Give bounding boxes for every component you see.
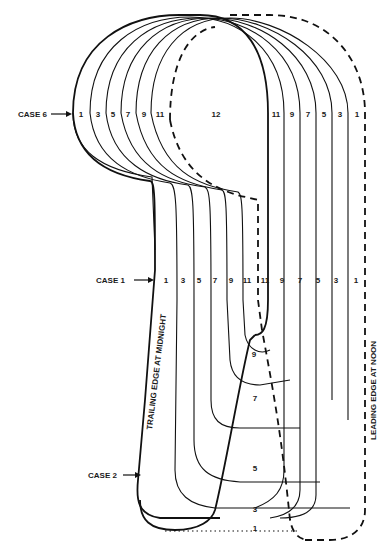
case6-label: CASE 6 bbox=[18, 110, 47, 119]
case6-left-7: 7 bbox=[126, 110, 131, 119]
case1-right-11: 11 bbox=[261, 276, 270, 285]
case1-right-5: 5 bbox=[316, 276, 321, 285]
case1-right-1: 1 bbox=[354, 276, 359, 285]
case1-left-1: 1 bbox=[164, 276, 169, 285]
case6-center-12: 12 bbox=[212, 110, 221, 119]
contour-diagram: CASE 6 1 3 5 7 9 11 12 11 9 7 5 3 1 CASE… bbox=[0, 0, 390, 547]
case6-left-9: 9 bbox=[142, 110, 147, 119]
case6-left-1: 1 bbox=[79, 110, 84, 119]
right-descending-curves bbox=[140, 250, 348, 530]
case1-left-9: 9 bbox=[229, 276, 234, 285]
case6-right-5: 5 bbox=[322, 110, 327, 119]
case6-right-11: 11 bbox=[272, 110, 281, 119]
case6-label-group: CASE 6 1 3 5 7 9 11 12 11 9 7 5 3 1 bbox=[18, 110, 360, 119]
leading-edge-label: LEADING EDGE AT NOON bbox=[369, 341, 378, 440]
case1-right-9: 9 bbox=[280, 276, 285, 285]
stack-5: 5 bbox=[253, 464, 258, 473]
case6-left-11: 11 bbox=[156, 110, 165, 119]
case1-left-5: 5 bbox=[197, 276, 202, 285]
case1-right-3: 3 bbox=[334, 276, 339, 285]
case2-label-group: CASE 2 bbox=[88, 471, 141, 480]
stack-1: 1 bbox=[253, 524, 258, 533]
case1-left-11: 11 bbox=[243, 276, 252, 285]
stack-9: 9 bbox=[252, 350, 257, 359]
case2-label: CASE 2 bbox=[88, 471, 117, 480]
case1-left-3: 3 bbox=[181, 276, 186, 285]
case6-left-3: 3 bbox=[96, 110, 101, 119]
stack-3: 3 bbox=[253, 505, 258, 514]
case1-right-7: 7 bbox=[298, 276, 303, 285]
trailing-edge-label: TRAILING EDGE AT MIDNIGHT bbox=[145, 313, 168, 430]
bottom-stack-labels: 9 7 5 3 1 bbox=[252, 350, 258, 533]
stack-7: 7 bbox=[253, 394, 258, 403]
arrowhead-icon bbox=[148, 277, 154, 283]
arrowhead-icon bbox=[66, 111, 72, 117]
case6-right-3: 3 bbox=[338, 110, 343, 119]
case6-right-7: 7 bbox=[306, 110, 311, 119]
case6-right-9: 9 bbox=[290, 110, 295, 119]
case6-left-5: 5 bbox=[111, 110, 116, 119]
case6-right-1: 1 bbox=[355, 110, 360, 119]
case1-label: CASE 1 bbox=[96, 276, 125, 285]
case1-left-7: 7 bbox=[213, 276, 218, 285]
